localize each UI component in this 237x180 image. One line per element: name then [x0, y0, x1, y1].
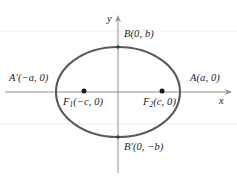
- focus-left-label: F1(−c, 0): [63, 97, 103, 109]
- focus-right-point: [160, 89, 165, 94]
- vertex-top-label: B(0, b): [124, 29, 154, 40]
- y-axis-label: y: [107, 14, 112, 25]
- vertex-right-label: A(a, 0): [190, 73, 220, 84]
- focus-right-label: F2(c, 0): [143, 97, 176, 109]
- figure-canvas: [0, 0, 237, 180]
- vertex-bottom-marker: [116, 135, 119, 138]
- vertex-top-marker: [116, 45, 119, 48]
- focus-left-point: [82, 89, 87, 94]
- ellipse-figure: y x B(0, b) B′(0, −b) A′(−a, 0) A(a, 0) …: [0, 0, 237, 180]
- vertex-bottom-label: B′(0, −b): [124, 142, 163, 153]
- focus-right-label-coords: (c, 0): [153, 96, 176, 107]
- x-axis-label: x: [219, 96, 224, 107]
- vertex-left-label: A′(−a, 0): [9, 73, 48, 84]
- focus-left-label-coords: (−c, 0): [73, 96, 103, 107]
